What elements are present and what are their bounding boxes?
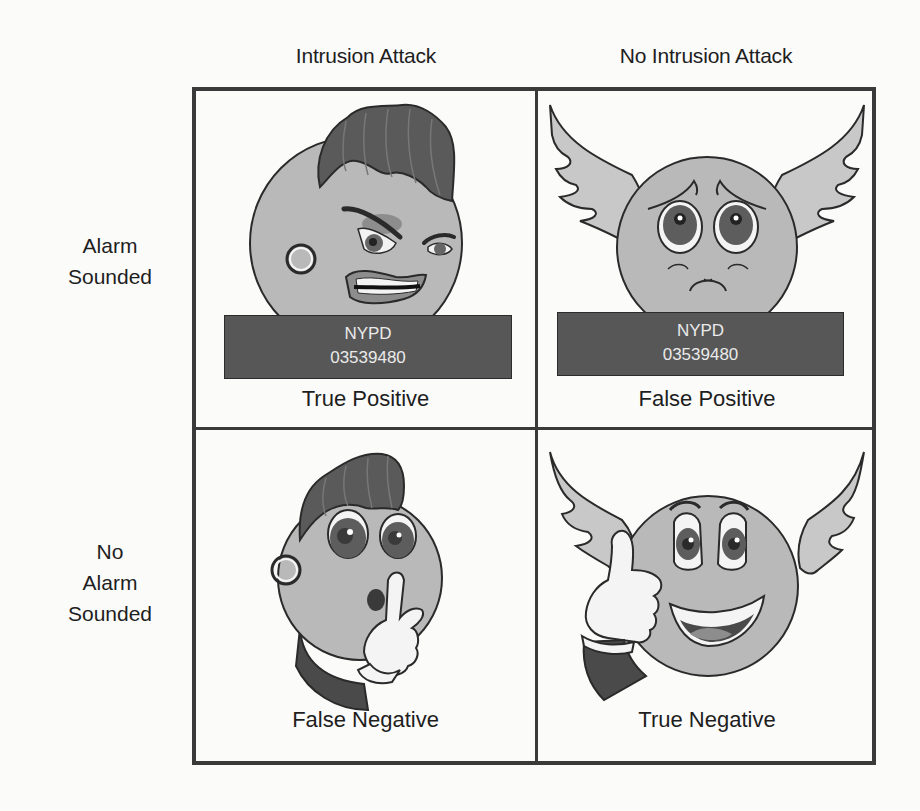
column-header-intrusion-attack: Intrusion Attack: [196, 44, 536, 68]
cell-true-positive: NYPD 03539480 True Positive: [196, 91, 535, 427]
row-header-line: Alarm: [40, 567, 180, 598]
row-header-line: Sounded: [40, 261, 180, 292]
placard-line-agency: NYPD: [225, 322, 511, 346]
cell-label: True Positive: [196, 386, 535, 412]
confusion-matrix-grid: NYPD 03539480 True Positive: [192, 87, 876, 765]
column-header-no-intrusion-attack: No Intrusion Attack: [536, 44, 876, 68]
row-header-alarm-sounded: Alarm Sounded: [40, 230, 180, 292]
row-header-line: Sounded: [40, 598, 180, 629]
id-placard: NYPD 03539480: [224, 315, 512, 379]
cell-false-positive: NYPD 03539480 False Positive: [538, 91, 876, 427]
cell-true-negative: True Negative: [538, 430, 876, 765]
placard-line-agency: NYPD: [558, 319, 843, 343]
cell-label: False Positive: [538, 386, 876, 412]
cell-label: False Negative: [196, 707, 535, 733]
sad-angel-icon: [538, 91, 876, 427]
placard-line-number: 03539480: [225, 346, 511, 370]
row-header-line: No: [40, 536, 180, 567]
row-header-line: Alarm: [40, 230, 180, 261]
placard-line-number: 03539480: [558, 343, 843, 367]
id-placard: NYPD 03539480: [557, 312, 844, 376]
cell-false-negative: False Negative: [196, 430, 535, 765]
cell-label: True Negative: [538, 707, 876, 733]
row-header-no-alarm-sounded: No Alarm Sounded: [40, 536, 180, 629]
